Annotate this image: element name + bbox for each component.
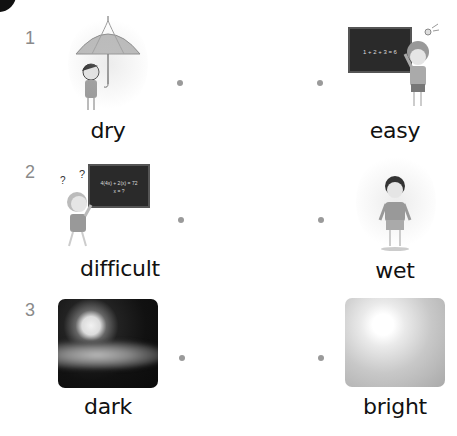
word-dark: dark	[48, 394, 168, 419]
item-number-1: 1	[25, 28, 35, 49]
bright-sunlight-photo	[345, 298, 445, 387]
match-dot-right-2[interactable]	[318, 217, 324, 223]
confused-girl-chalkboard-image: 4(4x) + 2(x) = 72 x = ? ? ?	[55, 160, 155, 250]
word-wet: wet	[335, 258, 455, 283]
word-bright: bright	[335, 394, 455, 419]
wet-boy-icon	[356, 152, 436, 252]
match-dot-left-2[interactable]	[178, 217, 184, 223]
svg-text:?: ?	[60, 175, 66, 186]
match-dot-right-1[interactable]	[317, 80, 323, 86]
item-number-3: 3	[25, 300, 35, 321]
word-easy: easy	[335, 118, 455, 143]
match-dot-left-1[interactable]	[177, 80, 183, 86]
match-dot-left-3[interactable]	[179, 355, 185, 361]
word-dry: dry	[48, 118, 168, 143]
girl-umbrella-image	[68, 14, 148, 114]
match-dot-right-3[interactable]	[318, 355, 324, 361]
word-difficult: difficult	[60, 256, 180, 281]
item-number-2: 2	[25, 162, 35, 183]
dark-night-moon-photo	[58, 299, 158, 388]
boy-in-rain-image	[356, 152, 436, 252]
boy-with-lightbulb-icon	[348, 22, 440, 112]
corner-decoration	[0, 0, 16, 12]
confused-girl-icon: ? ?	[55, 160, 155, 250]
svg-text:?: ?	[79, 168, 85, 180]
boy-chalkboard-image: 1 + 2 + 3 = 6	[348, 22, 440, 112]
